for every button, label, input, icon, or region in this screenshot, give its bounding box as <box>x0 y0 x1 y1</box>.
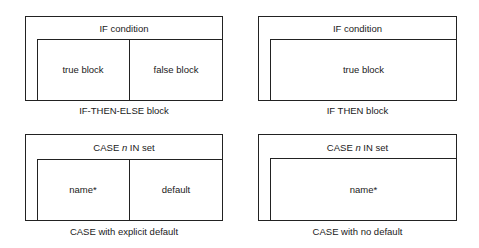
condition-label: IF condition <box>258 23 457 34</box>
name-cell-label: name* <box>270 184 457 195</box>
case-keyword: CASE <box>327 142 356 153</box>
true-block-label: true block <box>37 64 129 75</box>
name-cell-label: name* <box>37 184 129 195</box>
caption: IF THEN block <box>258 105 457 116</box>
header-divider <box>37 159 223 160</box>
case-set: IN set <box>127 142 154 153</box>
header-divider <box>270 39 457 40</box>
case-header-label: CASE n IN set <box>258 142 457 153</box>
false-block-label: false block <box>129 64 223 75</box>
case-set: IN set <box>361 142 388 153</box>
caption: IF-THEN-ELSE block <box>25 105 223 116</box>
header-divider <box>37 39 223 40</box>
caption: CASE with explicit default <box>25 226 223 237</box>
default-cell-label: default <box>129 184 223 195</box>
case-keyword: CASE <box>93 142 122 153</box>
header-divider <box>270 158 457 159</box>
true-block-label: true block <box>270 64 457 75</box>
caption: CASE with no default <box>258 226 457 237</box>
case-header-label: CASE n IN set <box>25 142 223 153</box>
condition-label: IF condition <box>25 23 223 34</box>
